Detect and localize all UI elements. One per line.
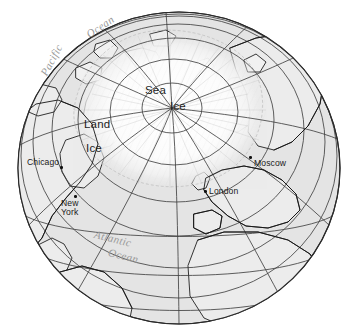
arctic-globe-map: Sea Ice Land Ice Pacific Ocean Atlantic … [0,0,348,336]
new-york-dot [74,195,77,198]
globe-svg [0,0,348,336]
london-dot [204,190,207,193]
moscow-dot [249,156,252,159]
chicago-dot [60,166,63,169]
